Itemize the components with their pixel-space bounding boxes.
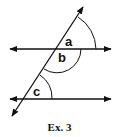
diagram-canvas: [0, 0, 119, 137]
angle-label-a: a: [65, 35, 72, 48]
angle-a-arc: [78, 17, 96, 49]
angle-label-b: b: [58, 51, 66, 64]
angle-c-arc: [40, 75, 52, 99]
angle-label-c: c: [33, 85, 40, 98]
geometry-figure: a b c Ex. 3: [0, 0, 119, 137]
figure-caption: Ex. 3: [0, 121, 119, 133]
